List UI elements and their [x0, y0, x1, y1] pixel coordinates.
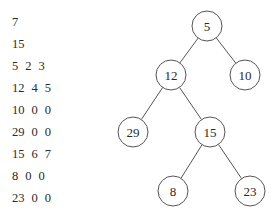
node-label: 23 — [244, 184, 257, 199]
tree-node: 8 — [158, 176, 188, 206]
node-label: 12 — [165, 68, 178, 83]
tree-edge — [218, 144, 241, 178]
node-label: 29 — [127, 125, 140, 140]
tree-node: 29 — [118, 117, 148, 147]
tree-node: 5 — [192, 11, 222, 41]
tree-node: 12 — [156, 60, 186, 90]
tree-edge — [216, 38, 236, 63]
binary-tree-diagram: 512102915823 — [0, 0, 276, 218]
tree-edge — [179, 87, 201, 119]
tree-edge — [181, 145, 202, 179]
tree-node: 10 — [230, 60, 260, 90]
tree-edge — [180, 38, 198, 63]
node-label: 15 — [204, 125, 217, 140]
tree-node: 15 — [195, 117, 225, 147]
tree-edge — [141, 87, 162, 119]
node-label: 5 — [204, 19, 211, 34]
node-label: 8 — [170, 184, 177, 199]
tree-node: 23 — [235, 176, 265, 206]
node-label: 10 — [239, 68, 252, 83]
